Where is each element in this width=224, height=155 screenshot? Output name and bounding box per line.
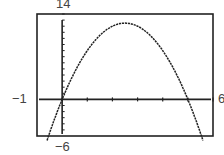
x-min-label: −1 xyxy=(12,92,27,105)
x-max-label: 6 xyxy=(218,92,224,105)
y-min-label: −6 xyxy=(55,140,70,153)
y-max-label: 14 xyxy=(56,0,70,10)
graph-plot xyxy=(0,0,224,155)
axis-ticks xyxy=(62,14,213,130)
axes xyxy=(39,20,211,134)
parabola-curve xyxy=(47,23,203,140)
